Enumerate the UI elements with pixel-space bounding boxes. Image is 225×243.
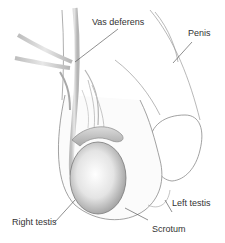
label-penis: Penis: [188, 28, 211, 38]
label-right-testis: Right testis: [12, 217, 57, 227]
label-left-testis: Left testis: [172, 198, 211, 208]
label-scrotum: Scrotum: [152, 224, 186, 234]
label-vas-deferens: Vas deferens: [92, 17, 144, 27]
right-testis-shape: [70, 142, 126, 214]
